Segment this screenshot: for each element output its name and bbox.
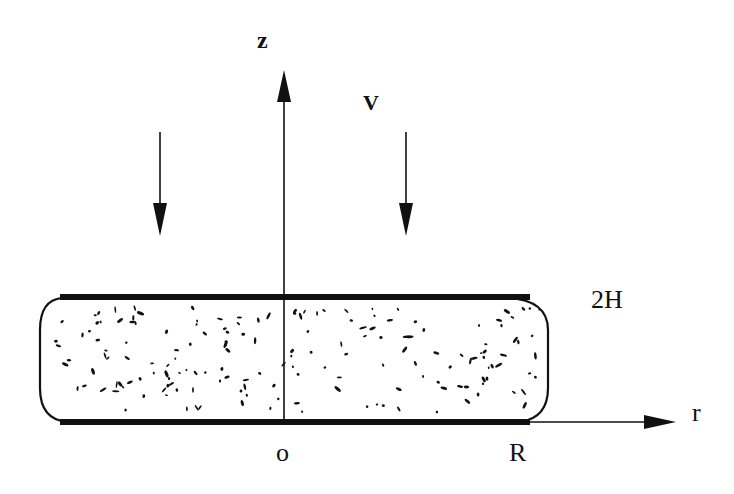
velocity-label: V [363, 92, 379, 114]
origin-label: o [276, 440, 289, 466]
r-axis-label: r [692, 400, 701, 426]
velocity-arrow-left-head [153, 203, 167, 236]
z-axis-label: z [257, 28, 268, 52]
r-axis-arrowhead [644, 415, 676, 429]
suspended-particles [54, 305, 541, 414]
radius-label: R [509, 440, 526, 466]
velocity-arrow-right-head [399, 203, 413, 236]
diagram-canvas [0, 0, 734, 494]
squeeze-flow-diagram: z V 2H r o R [0, 0, 734, 494]
gap-label: 2H [591, 287, 623, 313]
bottom-plate [60, 419, 530, 425]
z-axis-arrowhead [277, 70, 291, 102]
top-plate [60, 294, 530, 300]
